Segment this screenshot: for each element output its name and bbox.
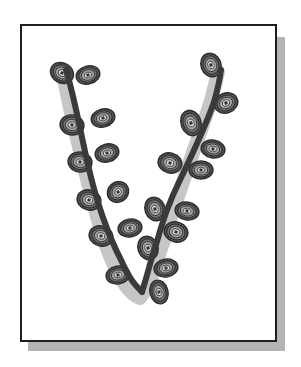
bud-icon <box>93 141 121 165</box>
bud-icon <box>117 217 144 239</box>
branch-shadow-underlay <box>62 70 218 298</box>
bud-icon <box>103 177 133 206</box>
bud-icon <box>189 161 213 179</box>
letter-v-branch-illustration <box>0 0 301 367</box>
bud-icon <box>74 63 102 87</box>
bud-icon <box>89 106 117 130</box>
